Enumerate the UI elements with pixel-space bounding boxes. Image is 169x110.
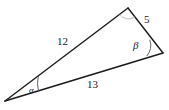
angle-label-alpha: α (29, 86, 34, 95)
triangle-figure: 12 5 13 α β (0, 0, 169, 110)
triangle-side-12 (5, 8, 128, 101)
side-label-5: 5 (144, 14, 150, 25)
angle-arc-alpha (38, 76, 39, 91)
side-label-12: 12 (57, 36, 68, 47)
angle-label-beta: β (133, 40, 138, 51)
angle-arc-top (120, 14, 135, 19)
angle-arc-beta (147, 40, 151, 56)
side-label-13: 13 (87, 79, 98, 90)
